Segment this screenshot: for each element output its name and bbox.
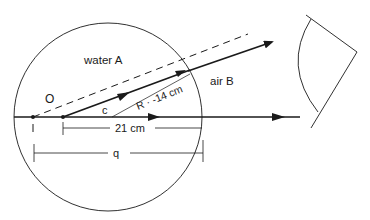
axis-arrow-inside xyxy=(148,113,160,121)
ray-arrow-boundary xyxy=(175,70,186,77)
sector-edge-top xyxy=(306,15,357,52)
label-q: q xyxy=(113,147,119,159)
image-point-dot xyxy=(31,115,35,119)
sector-edge-bottom xyxy=(311,52,357,128)
label-center-c: c xyxy=(102,104,108,116)
label-radius: R · -14 cm xyxy=(134,82,184,112)
refraction-diagram: water A air B O c R · -14 cm 21 cm q xyxy=(0,0,370,220)
ray-outside xyxy=(188,42,272,71)
label-water-a: water A xyxy=(83,54,123,66)
label-object-o: O xyxy=(45,92,54,106)
ray-arrow-inside xyxy=(117,92,130,101)
axis-arrow-outside xyxy=(272,113,285,121)
center-point-dot xyxy=(61,115,65,119)
label-air-b: air B xyxy=(210,75,234,87)
label-21cm: 21 cm xyxy=(115,122,145,134)
sector-arc xyxy=(298,19,318,112)
